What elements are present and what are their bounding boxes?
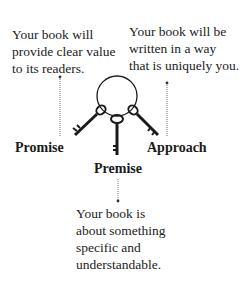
approach-label: Approach	[147, 140, 207, 156]
approach-description: Your book will be written in a way that …	[129, 23, 239, 74]
approach-key-icon	[127, 104, 158, 135]
promise-description: Your book will provide clear value to it…	[12, 26, 115, 77]
premise-label: Premise	[94, 161, 142, 177]
premise-description: Your book is about something specific an…	[76, 205, 166, 273]
promise-key-icon	[73, 104, 107, 135]
premise-key-icon	[111, 115, 123, 155]
key-ring-icon	[97, 76, 137, 116]
promise-label: Promise	[15, 140, 64, 156]
